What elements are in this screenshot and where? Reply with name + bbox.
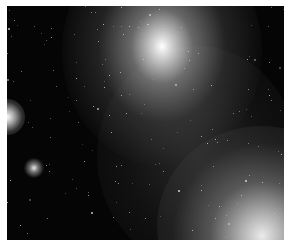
star bbox=[175, 84, 177, 86]
star bbox=[116, 166, 117, 167]
star bbox=[130, 229, 131, 230]
star bbox=[121, 95, 122, 96]
star bbox=[76, 78, 77, 79]
star bbox=[164, 25, 165, 26]
star bbox=[102, 64, 103, 65]
star bbox=[251, 25, 252, 26]
star bbox=[219, 206, 220, 207]
star bbox=[233, 113, 234, 114]
star bbox=[123, 34, 124, 35]
star bbox=[91, 12, 92, 13]
star bbox=[215, 218, 216, 219]
star bbox=[93, 106, 94, 107]
star bbox=[113, 217, 114, 218]
star bbox=[120, 72, 121, 73]
left-edge-glow bbox=[7, 99, 25, 135]
star bbox=[129, 212, 130, 213]
star bbox=[268, 26, 269, 27]
star bbox=[162, 33, 163, 34]
star bbox=[248, 89, 249, 90]
star bbox=[17, 25, 18, 26]
star bbox=[198, 53, 199, 54]
star bbox=[104, 87, 105, 88]
star bbox=[105, 59, 106, 60]
star bbox=[155, 164, 156, 165]
star bbox=[84, 161, 85, 162]
star bbox=[85, 6, 86, 7]
star bbox=[30, 100, 31, 101]
star bbox=[46, 165, 47, 166]
star bbox=[153, 79, 154, 80]
star bbox=[188, 51, 189, 52]
star bbox=[201, 185, 202, 186]
star bbox=[74, 34, 75, 35]
star bbox=[132, 183, 133, 184]
star bbox=[129, 94, 130, 95]
star bbox=[49, 164, 50, 165]
star bbox=[121, 7, 122, 8]
star bbox=[115, 181, 116, 182]
star bbox=[248, 143, 249, 144]
star bbox=[49, 171, 50, 172]
star bbox=[7, 79, 9, 81]
star bbox=[269, 95, 270, 96]
star bbox=[237, 203, 238, 204]
star bbox=[109, 115, 110, 116]
star bbox=[116, 202, 117, 203]
star bbox=[103, 24, 104, 25]
star bbox=[27, 233, 28, 234]
star bbox=[138, 27, 139, 28]
star bbox=[95, 12, 96, 13]
star bbox=[97, 108, 99, 110]
star bbox=[50, 118, 51, 119]
star bbox=[28, 122, 29, 123]
star bbox=[283, 9, 284, 10]
star bbox=[143, 59, 144, 60]
star bbox=[11, 36, 12, 37]
star bbox=[82, 144, 83, 145]
star bbox=[129, 26, 130, 27]
star bbox=[104, 81, 105, 82]
small-left-glow bbox=[24, 158, 44, 178]
star bbox=[51, 37, 52, 38]
star bbox=[44, 44, 45, 45]
star bbox=[14, 20, 15, 21]
star bbox=[268, 89, 269, 90]
star bbox=[169, 36, 170, 37]
star bbox=[88, 192, 89, 193]
star bbox=[239, 111, 240, 112]
star bbox=[247, 59, 248, 60]
star bbox=[190, 120, 191, 121]
star bbox=[144, 104, 145, 105]
star bbox=[258, 146, 259, 147]
star bbox=[215, 139, 216, 140]
star bbox=[65, 193, 66, 194]
star bbox=[226, 215, 227, 216]
star bbox=[178, 190, 180, 192]
star bbox=[184, 68, 185, 69]
star bbox=[249, 175, 250, 176]
star bbox=[269, 62, 270, 63]
star bbox=[149, 184, 150, 185]
star bbox=[213, 166, 214, 167]
star bbox=[20, 225, 21, 226]
star bbox=[140, 21, 141, 22]
star bbox=[118, 183, 119, 184]
star bbox=[241, 195, 242, 196]
star bbox=[126, 113, 127, 114]
star bbox=[192, 230, 193, 231]
star bbox=[91, 212, 93, 214]
star bbox=[278, 151, 279, 152]
star bbox=[201, 136, 202, 137]
star bbox=[141, 113, 142, 114]
star bbox=[280, 110, 281, 111]
star bbox=[245, 180, 247, 182]
star bbox=[13, 81, 14, 82]
star bbox=[163, 148, 164, 149]
star bbox=[88, 195, 89, 196]
star bbox=[164, 34, 165, 35]
star bbox=[92, 150, 93, 151]
star bbox=[109, 75, 110, 76]
star bbox=[262, 182, 263, 183]
star bbox=[225, 237, 226, 238]
